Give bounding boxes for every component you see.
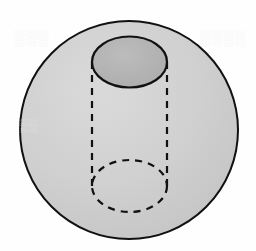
cylinder-top-ellipse — [92, 37, 167, 88]
sphere-cylinder-diagram — [0, 0, 256, 251]
figure-container: ░░░ ░░░░ ░░ Sphere with inscribed cylind… — [0, 0, 256, 251]
